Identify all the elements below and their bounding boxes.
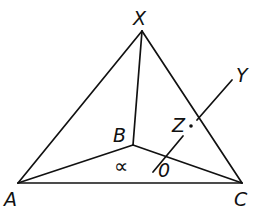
segment-xb bbox=[133, 31, 142, 145]
label-x: X bbox=[132, 7, 147, 29]
angle-alpha-symbol: ∝ bbox=[114, 154, 128, 178]
label-o: 0 bbox=[158, 159, 170, 181]
segment-bc bbox=[133, 145, 242, 183]
label-y: Y bbox=[236, 64, 249, 86]
label-a: A bbox=[2, 188, 17, 210]
label-z: Z bbox=[171, 114, 186, 136]
geometry-figure: X A B C 0 Z Y ∝ bbox=[0, 0, 261, 221]
line-zy bbox=[197, 80, 232, 120]
label-c: C bbox=[234, 188, 248, 210]
point-z-dot bbox=[189, 124, 193, 128]
label-b: B bbox=[113, 124, 126, 146]
segment-xc bbox=[142, 31, 242, 183]
